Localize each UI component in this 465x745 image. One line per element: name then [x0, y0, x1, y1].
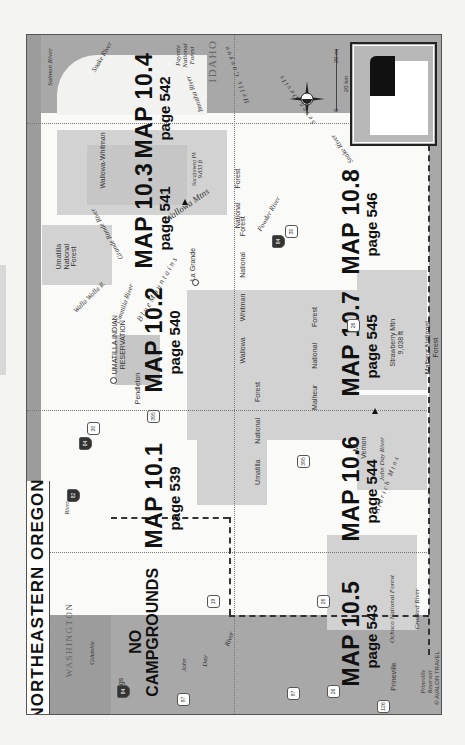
us-26-shield: 26 — [317, 595, 330, 608]
sacajawea-peak-icon — [182, 199, 188, 205]
grid-line-h2 — [27, 410, 429, 411]
interstate-84-shield: 84 — [272, 235, 285, 248]
forest-label-ochoco: Ochoco National Forest — [388, 564, 396, 654]
map-label-10-4[interactable]: MAP 10.4page 542 — [133, 59, 172, 159]
river-label-crooked: Crooked River — [413, 579, 421, 639]
grid-line-v — [234, 35, 235, 715]
or-82-shield: 82 — [67, 489, 80, 502]
place-label-pendleton: Pendleton — [134, 364, 141, 414]
scale-bar: 20 mi 20 km 0 — [329, 45, 345, 115]
us-97-shield: 97 — [287, 687, 300, 700]
or-19-shield: 19 — [207, 595, 220, 608]
forest-label-malheur-south: Malheur NationalForest — [424, 313, 439, 383]
grid-line-h3 — [27, 552, 429, 553]
oregon-inset-map — [350, 42, 437, 146]
scale-km: 20 km — [343, 69, 349, 99]
peak-label-sacajawea: Sacajawea Pk9,833 ft — [191, 149, 203, 189]
forest-label-malheur: Malheur National Forest — [311, 304, 318, 414]
us-26-shield: 26 — [347, 319, 360, 332]
nocamp-boundary — [229, 517, 231, 615]
page-edge-tab — [0, 265, 6, 375]
feature-label-prineville-reservoir: PrinevilleReservoir — [420, 662, 433, 702]
central-oregon-lower — [227, 615, 442, 715]
map-title: NORTHEASTERN OREGON — [28, 478, 48, 715]
river-label-columbia: Columbia — [89, 633, 95, 673]
forest-label-wallowa-whitman: Wallowa-Whitman — [99, 126, 106, 196]
map-title-box: NORTHEASTERN OREGON — [27, 481, 50, 715]
peak-label-strawberry: Strawberry Mtn9,038 ft — [389, 318, 404, 368]
us-26-shield: 26 — [327, 685, 340, 698]
state-label-washington: WASHINGTON — [64, 590, 74, 690]
river-label-salmon: Salmon River — [46, 42, 54, 92]
state-label-idaho: IDAHO — [206, 34, 218, 91]
scale-zero: 0 — [333, 95, 339, 125]
forest-label-umatilla-south: Umatilla National Forest — [254, 379, 261, 489]
interstate-84-shield: 84 — [79, 437, 92, 450]
us-30-shield: 30 — [87, 422, 100, 435]
copyright-label: © AVALON TRAVEL — [434, 638, 440, 715]
locator-map: NORTHEASTERN OREGON MAP 10.4page 542 MAP… — [26, 34, 442, 715]
forest-label-umatilla-north: UmatillaNationalForest — [55, 237, 78, 277]
scale-miles: 20 mi — [333, 41, 339, 71]
place-label-mt-vernon: MtVernon — [352, 433, 367, 463]
south-boundary — [428, 135, 430, 655]
or-126-shield: 126 — [377, 700, 390, 713]
forest-label-wallowa-whitman-mid: Wallowa Whitman National Forest — [239, 254, 246, 364]
pendleton-marker — [110, 377, 117, 384]
boundary-bottom — [229, 615, 429, 617]
la-grande-marker — [192, 279, 199, 286]
us-97-shield: 97 — [177, 693, 190, 706]
washington-strip — [27, 35, 41, 495]
map-label-10-5[interactable]: MAP 10.5page 543 — [340, 587, 379, 687]
us-30-shield: 30 — [285, 225, 298, 238]
river-label-john-day-north: John Day River — [167, 635, 247, 675]
map-label-10-8[interactable]: MAP 10.8page 546 — [340, 175, 379, 275]
us-395-shield: 395 — [147, 410, 160, 423]
us-395-shield: 395 — [297, 455, 310, 468]
no-campgrounds-label: NOCAMPGROUNDS — [128, 587, 162, 697]
central-forest — [187, 290, 357, 440]
strawberry-peak-icon — [372, 408, 378, 414]
interstate-84-shield: 84 — [117, 685, 130, 698]
northeastern-oregon-highlight — [370, 56, 395, 96]
map-label-10-1[interactable]: MAP 10.1page 539 — [143, 449, 182, 549]
map-label-10-7[interactable]: MAP 10.7page 545 — [340, 297, 379, 397]
place-label-prineville: Prineville — [390, 657, 397, 697]
forest-label-payette: PayetteNationalForest — [175, 38, 196, 74]
